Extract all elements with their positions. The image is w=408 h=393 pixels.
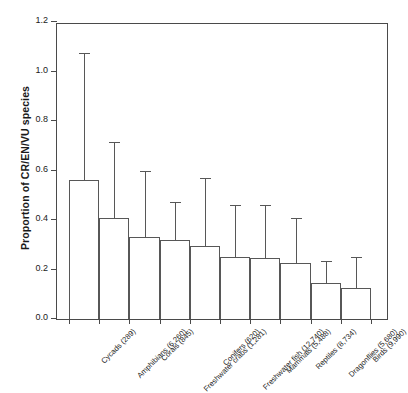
y-axis-tick-label: 1.2 bbox=[35, 15, 48, 25]
y-axis-tick-label: 0.4 bbox=[35, 213, 48, 223]
error-bar-cap bbox=[109, 142, 120, 143]
error-bar-line bbox=[205, 179, 206, 246]
y-axis-tick: 0.8 bbox=[51, 120, 57, 121]
y-axis-tick: 1.2 bbox=[51, 21, 57, 22]
x-axis-tick bbox=[129, 319, 130, 324]
plot-area: 0.00.20.40.60.81.01.2 bbox=[56, 23, 388, 320]
error-bar-line bbox=[175, 203, 176, 240]
y-axis-tick-label: 0.8 bbox=[35, 114, 48, 124]
y-axis-tick: 1.0 bbox=[51, 71, 57, 72]
x-axis-tick bbox=[311, 319, 312, 324]
x-axis-tick bbox=[341, 319, 342, 324]
bar bbox=[99, 218, 129, 319]
error-bar-line bbox=[114, 143, 115, 217]
y-axis-tick: 0.2 bbox=[51, 269, 57, 270]
error-bar-cap bbox=[140, 171, 151, 172]
bar bbox=[190, 246, 220, 319]
x-axis-tick bbox=[160, 319, 161, 324]
error-bar-line bbox=[296, 219, 297, 264]
x-axis-tick bbox=[99, 319, 100, 324]
error-bar-cap bbox=[79, 53, 90, 54]
error-bar-cap bbox=[200, 178, 211, 179]
bar bbox=[69, 180, 99, 319]
bar bbox=[160, 240, 190, 319]
x-axis-tick bbox=[250, 319, 251, 324]
x-axis-category-label: Freshwater crabs (1,281) bbox=[202, 327, 268, 393]
error-bar-line bbox=[265, 206, 266, 258]
y-axis-tick: 0.6 bbox=[51, 170, 57, 171]
error-bar-cap bbox=[321, 261, 332, 262]
error-bar-line bbox=[356, 258, 357, 288]
x-axis-category-label: Mammals (5,488) bbox=[285, 327, 333, 375]
bar bbox=[341, 288, 371, 319]
y-axis-tick-label: 1.0 bbox=[35, 65, 48, 75]
error-bar-cap bbox=[230, 205, 241, 206]
error-bar-line bbox=[84, 54, 85, 180]
x-axis-category-label: Cycads (289) bbox=[99, 327, 137, 365]
error-bar-line bbox=[326, 262, 327, 283]
bar bbox=[250, 258, 280, 319]
bar bbox=[311, 283, 341, 319]
error-bar-cap bbox=[291, 218, 302, 219]
error-bar-line bbox=[235, 206, 236, 257]
error-bar-cap bbox=[170, 202, 181, 203]
x-axis-category-label: Dragonflies (5,680) bbox=[347, 327, 399, 379]
error-bar-cap bbox=[260, 205, 271, 206]
x-axis-tick bbox=[220, 319, 221, 324]
x-axis-category-label: Freshwater fish (12,740) bbox=[261, 327, 326, 392]
y-axis-title: Proportion of CR/EN/VU species bbox=[16, 18, 34, 318]
x-axis-tick bbox=[69, 319, 70, 324]
y-axis-tick-label: 0.6 bbox=[35, 164, 48, 174]
x-axis-category-label: Conifers (620) bbox=[221, 327, 261, 367]
x-axis-category-label: Reptiles (8,734) bbox=[313, 327, 357, 371]
y-axis-tick: 0.4 bbox=[51, 219, 57, 220]
x-axis-category-label: Corals (845) bbox=[159, 327, 195, 363]
y-axis-tick: 0.0 bbox=[51, 318, 57, 319]
x-axis-category-label: Amphibians (6,260) bbox=[136, 327, 189, 380]
bar bbox=[220, 257, 250, 319]
y-axis-tick-label: 0.2 bbox=[35, 263, 48, 273]
bar bbox=[129, 237, 159, 319]
x-axis-tick bbox=[280, 319, 281, 324]
x-axis-tick bbox=[190, 319, 191, 324]
y-axis-tick-label: 0.0 bbox=[35, 312, 48, 322]
error-bar-cap bbox=[351, 257, 362, 258]
x-axis-category-label: Birds (9,990) bbox=[371, 327, 408, 364]
x-axis-tick bbox=[371, 319, 372, 324]
error-bar-line bbox=[145, 172, 146, 238]
bar bbox=[280, 263, 310, 319]
